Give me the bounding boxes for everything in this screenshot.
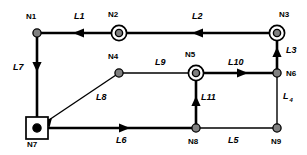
node-N7[interactable] bbox=[26, 117, 48, 139]
node-label-N6: N6 bbox=[286, 69, 296, 78]
node-label-N5: N5 bbox=[185, 50, 195, 59]
edge-L8 bbox=[37, 73, 119, 128]
edge-label-L6: L6 bbox=[116, 135, 127, 145]
edge-label-L7: L7 bbox=[13, 62, 24, 72]
edge-label-L11: L11 bbox=[201, 92, 216, 102]
node-N6[interactable] bbox=[273, 69, 281, 77]
edge-label-L1: L1 bbox=[74, 11, 85, 21]
node-label-N2: N2 bbox=[108, 10, 118, 19]
node-label-N1: N1 bbox=[26, 12, 36, 21]
edge-label-L9: L9 bbox=[155, 57, 166, 67]
edge-L2 bbox=[119, 29, 277, 38]
node-N4[interactable] bbox=[115, 69, 123, 77]
node-N5[interactable] bbox=[188, 65, 203, 80]
edge-L10 bbox=[196, 69, 277, 78]
edge-L6 bbox=[37, 124, 196, 133]
node-label-N7: N7 bbox=[27, 140, 37, 149]
node-label-N3: N3 bbox=[279, 10, 289, 19]
edge-label-L4-subscript: 4 bbox=[289, 97, 293, 103]
edge-label-L3: L3 bbox=[286, 45, 297, 55]
edge-label-L4-letter: L bbox=[283, 91, 289, 101]
diagram-canvas: N1 N2 N3 N4 N5 N6 N7 N8 N9 L1 L2 L3 L4 L… bbox=[0, 0, 307, 155]
node-N2[interactable] bbox=[111, 25, 126, 40]
edge-L1 bbox=[37, 29, 119, 38]
edge-label-L2: L2 bbox=[192, 11, 203, 21]
edge-label-L8: L8 bbox=[96, 92, 107, 102]
node-N3[interactable] bbox=[269, 25, 284, 40]
edge-label-L5: L5 bbox=[228, 135, 239, 145]
edge-L7 bbox=[32, 33, 41, 128]
node-N9[interactable] bbox=[273, 124, 281, 132]
edge-label-L10: L10 bbox=[228, 57, 244, 67]
node-N8[interactable] bbox=[192, 124, 200, 132]
node-N1[interactable] bbox=[33, 29, 41, 37]
node-label-N8: N8 bbox=[188, 137, 198, 146]
edge-label-L4: L4 bbox=[283, 91, 293, 103]
node-label-N4: N4 bbox=[108, 52, 118, 61]
node-label-N9: N9 bbox=[271, 137, 281, 146]
network-graph bbox=[0, 0, 307, 155]
